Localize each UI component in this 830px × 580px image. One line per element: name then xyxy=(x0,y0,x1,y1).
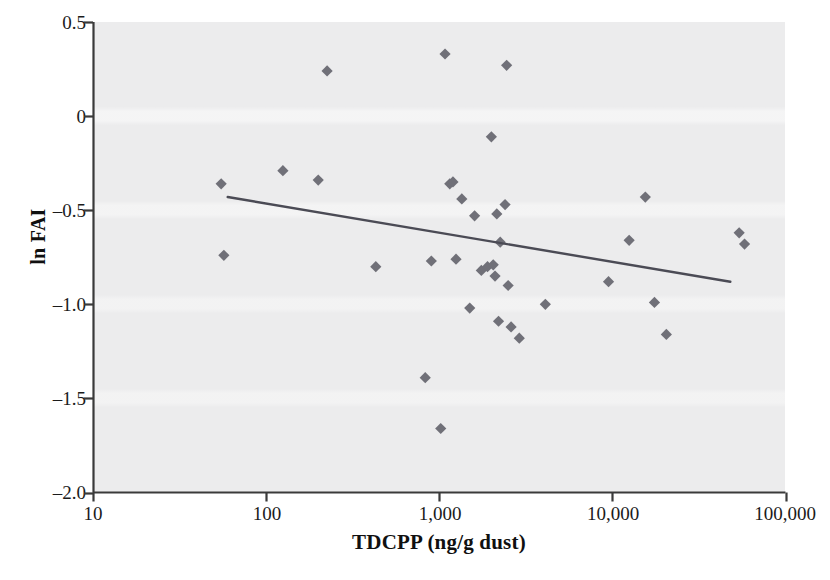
chart-canvas xyxy=(0,0,830,580)
data-point xyxy=(501,60,512,71)
data-point xyxy=(435,423,446,434)
data-point xyxy=(624,235,635,246)
data-point xyxy=(420,372,431,383)
data-point xyxy=(493,316,504,327)
data-point xyxy=(603,276,614,287)
data-point xyxy=(450,254,461,265)
data-point xyxy=(505,321,516,332)
data-point xyxy=(503,280,514,291)
data-point xyxy=(649,297,660,308)
data-point xyxy=(464,302,475,313)
data-point xyxy=(469,210,480,221)
data-point xyxy=(640,191,651,202)
data-point xyxy=(739,238,750,249)
data-point xyxy=(489,270,500,281)
data-points xyxy=(216,48,751,434)
y-axis-ticks xyxy=(84,23,93,494)
data-point xyxy=(499,199,510,210)
scatter-plot-figure: 0.5 0 –0.5 –1.0 –1.5 –2.0 10 100 1,000 1… xyxy=(0,0,830,580)
data-point xyxy=(661,329,672,340)
data-point xyxy=(277,165,288,176)
data-point xyxy=(439,48,450,59)
data-point xyxy=(514,333,525,344)
data-point xyxy=(216,178,227,189)
data-point xyxy=(456,193,467,204)
data-point xyxy=(491,208,502,219)
axis-lines xyxy=(93,22,786,493)
data-point xyxy=(734,227,745,238)
data-point xyxy=(486,131,497,142)
data-point xyxy=(218,250,229,261)
x-axis-ticks xyxy=(94,493,787,502)
data-point xyxy=(321,65,332,76)
data-point xyxy=(426,255,437,266)
data-point xyxy=(370,261,381,272)
data-point xyxy=(540,299,551,310)
data-point xyxy=(313,174,324,185)
